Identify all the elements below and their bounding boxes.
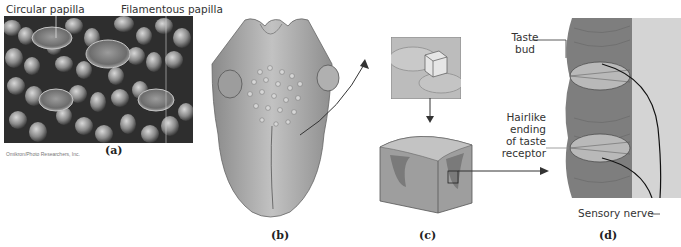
arrow-block-to-detail <box>458 166 550 176</box>
panel-label-c: (c) <box>419 229 436 242</box>
label-hairlike-ending: Hairlike ending of taste receptor <box>500 111 546 159</box>
leader-hairlike <box>546 145 570 151</box>
panel-c-inset <box>391 37 461 99</box>
panel-label-a: (a) <box>105 144 123 157</box>
panel-d-cross-section <box>562 18 681 198</box>
panel-label-d: (d) <box>599 229 617 242</box>
leader-taste-bud <box>532 36 572 61</box>
panel-label-b: (b) <box>271 229 289 242</box>
label-circular-papilla: Circular papilla <box>6 3 85 15</box>
surface-inset <box>391 37 461 99</box>
label-hairlike-line2: ending <box>500 123 546 135</box>
panel-a-micrograph <box>4 16 193 143</box>
arrow-inset-to-block <box>425 98 435 124</box>
taste-bud-section <box>562 18 681 198</box>
leader-sensory-nerve <box>651 212 661 216</box>
micrograph-image <box>4 16 193 143</box>
photo-credit: Omikron/Photo Researchers, Inc. <box>6 151 80 157</box>
arrow-tongue-to-inset <box>290 55 380 145</box>
label-hairlike-line3: of taste <box>500 135 546 147</box>
label-hairlike-line4: receptor <box>500 147 546 159</box>
label-hairlike-line1: Hairlike <box>500 111 546 123</box>
label-sensory-nerve: Sensory nerve <box>578 207 654 219</box>
